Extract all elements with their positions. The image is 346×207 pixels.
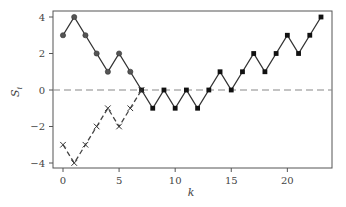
square-marker xyxy=(251,51,256,56)
square-marker xyxy=(173,106,178,111)
x-marker xyxy=(83,142,89,148)
square-marker xyxy=(285,33,290,38)
chart: 05101520−4−2024 k Si xyxy=(0,0,346,207)
y-axis-label: Si xyxy=(9,87,24,98)
y-tick-label: −2 xyxy=(30,121,45,132)
circle-marker xyxy=(116,51,121,56)
square-marker xyxy=(150,106,155,111)
x-tick-label: 15 xyxy=(225,175,238,186)
y-tick-label: 0 xyxy=(39,85,45,96)
x-tick-label: 20 xyxy=(281,175,294,186)
x-tick-label: 10 xyxy=(169,175,182,186)
square-marker xyxy=(162,88,167,93)
y-tick-label: 2 xyxy=(39,48,45,59)
square-marker xyxy=(184,88,189,93)
circle-marker xyxy=(94,51,99,56)
x-marker xyxy=(116,124,122,130)
circle-marker xyxy=(83,33,88,38)
square-marker xyxy=(240,69,245,74)
x-marker xyxy=(94,124,100,130)
square-marker xyxy=(319,15,324,20)
x-marker xyxy=(60,142,66,148)
square-marker xyxy=(274,51,279,56)
circle-marker xyxy=(60,33,65,38)
series-solid-line xyxy=(63,17,321,108)
x-tick-label: 5 xyxy=(116,175,122,186)
square-marker xyxy=(263,69,268,74)
x-axis-label: k xyxy=(188,186,195,199)
square-marker xyxy=(296,51,301,56)
x-marker xyxy=(128,105,134,111)
square-marker xyxy=(307,33,312,38)
y-tick-label: −4 xyxy=(30,158,45,169)
circle-marker xyxy=(128,69,133,74)
circle-marker xyxy=(72,14,77,19)
y-tick-label: 4 xyxy=(39,12,45,23)
circle-marker xyxy=(105,69,110,74)
x-marker xyxy=(71,160,77,166)
square-marker xyxy=(218,69,223,74)
svg-text:Si: Si xyxy=(9,87,24,98)
series-dashed-line xyxy=(63,90,142,163)
x-marker xyxy=(105,105,111,111)
square-marker xyxy=(206,88,211,93)
square-marker xyxy=(195,106,200,111)
x-tick-label: 0 xyxy=(60,175,66,186)
square-marker xyxy=(229,88,234,93)
